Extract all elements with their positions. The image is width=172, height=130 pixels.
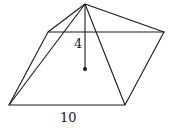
- edge-apex-front-left: [9, 4, 85, 105]
- pyramid-diagram: 4 10: [0, 0, 172, 130]
- edge-apex-front-right: [85, 4, 125, 105]
- base-center-point: [83, 67, 87, 71]
- base-side-label: 10: [60, 110, 77, 125]
- height-label: 4: [74, 36, 82, 51]
- edge-apex-back-right: [85, 4, 164, 32]
